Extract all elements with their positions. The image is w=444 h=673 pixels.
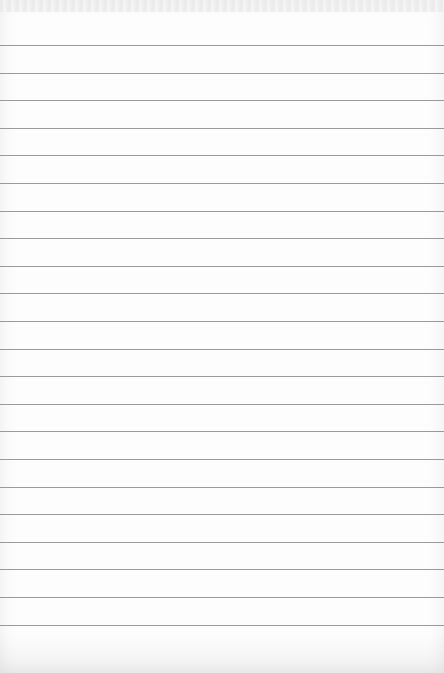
ruled-line — [0, 487, 444, 488]
bottom-shadow — [0, 633, 444, 673]
ruled-line — [0, 45, 444, 46]
ruled-line — [0, 404, 444, 405]
ruled-line — [0, 155, 444, 156]
ruled-line — [0, 542, 444, 543]
ruled-line — [0, 625, 444, 626]
ruled-line — [0, 569, 444, 570]
ruled-line — [0, 514, 444, 515]
perforated-top-edge — [0, 0, 444, 12]
ruled-line — [0, 211, 444, 212]
ruled-line — [0, 128, 444, 129]
ruled-line — [0, 100, 444, 101]
ruled-line — [0, 349, 444, 350]
ruled-line — [0, 597, 444, 598]
ruled-line — [0, 431, 444, 432]
lined-paper-sheet — [0, 0, 444, 673]
ruled-line — [0, 293, 444, 294]
ruled-line — [0, 266, 444, 267]
ruled-line — [0, 183, 444, 184]
ruled-line — [0, 238, 444, 239]
ruled-line — [0, 321, 444, 322]
ruled-line — [0, 459, 444, 460]
ruled-line — [0, 376, 444, 377]
ruled-line — [0, 73, 444, 74]
